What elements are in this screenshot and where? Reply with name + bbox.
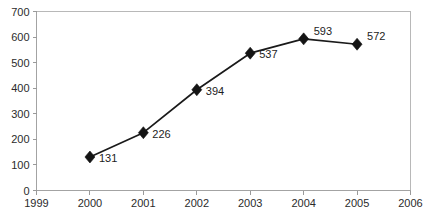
y-tick-label: 700 xyxy=(11,6,29,18)
data-point-label: 537 xyxy=(259,48,277,60)
axis-lines xyxy=(37,12,411,191)
x-tick-label: 1999 xyxy=(24,197,48,209)
y-tick-label: 100 xyxy=(11,159,29,171)
x-tick-label: 2003 xyxy=(238,197,262,209)
data-marker xyxy=(245,47,255,59)
y-axis-tick-labels: 0100200300400500600700 xyxy=(11,6,29,197)
line-chart: 0100200300400500600700 19992000200120022… xyxy=(0,0,424,223)
data-point-label: 131 xyxy=(99,152,117,164)
x-tick-label: 2001 xyxy=(131,197,155,209)
y-tick-label: 500 xyxy=(11,57,29,69)
data-point-label: 394 xyxy=(206,85,224,97)
y-tick-label: 200 xyxy=(11,133,29,145)
data-point-label: 226 xyxy=(152,128,170,140)
chart-canvas: 0100200300400500600700 19992000200120022… xyxy=(0,0,424,223)
data-point-label: 593 xyxy=(314,25,332,37)
data-line-series-1 xyxy=(90,39,357,157)
y-tick-label: 300 xyxy=(11,108,29,120)
x-axis-tick-labels: 19992000200120022003200420052006 xyxy=(24,197,422,209)
x-tick-label: 2005 xyxy=(345,197,369,209)
x-tick-label: 2004 xyxy=(291,197,315,209)
y-tick-label: 600 xyxy=(11,31,29,43)
x-tick-label: 2000 xyxy=(78,197,102,209)
data-marker xyxy=(85,151,95,163)
data-marker xyxy=(138,127,148,139)
y-tick-label: 400 xyxy=(11,82,29,94)
data-marker xyxy=(192,84,202,96)
plot-frame xyxy=(37,12,411,191)
y-tick-label: 0 xyxy=(23,185,29,197)
plot-border xyxy=(37,12,411,191)
data-markers xyxy=(85,33,362,163)
data-marker xyxy=(299,33,309,45)
data-marker xyxy=(352,38,362,50)
x-tick-label: 2006 xyxy=(398,197,422,209)
data-point-label: 572 xyxy=(367,30,385,42)
x-tick-label: 2002 xyxy=(185,197,209,209)
data-point-labels: 131226394537593572 xyxy=(99,25,386,164)
